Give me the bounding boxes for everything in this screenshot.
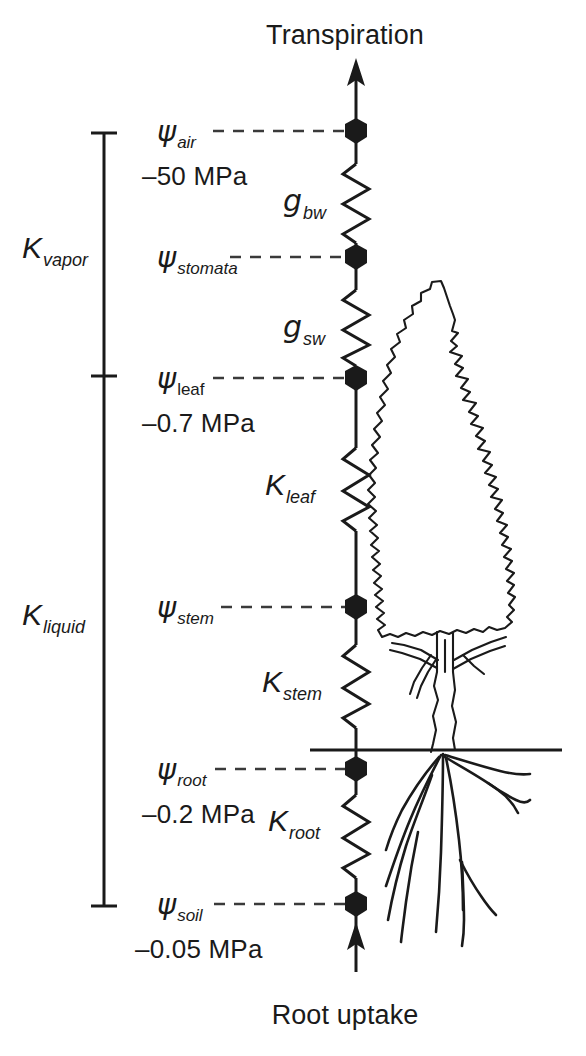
psi-air-subscript: air	[177, 134, 196, 151]
node-psi-stem	[345, 594, 367, 620]
spac-diagram: Transpiration Root uptake Kvapor Kliquid…	[0, 0, 586, 1056]
k-stem-label: Kstem	[262, 667, 322, 697]
psi-leaf-subscript: leaf	[177, 381, 204, 398]
tree-outline	[368, 281, 515, 752]
g-bw-subscript: bw	[303, 204, 326, 222]
k-leaf-symbol: K	[265, 470, 285, 500]
g-bw-label: gbw	[283, 186, 326, 216]
transpiration-label: Transpiration	[266, 22, 424, 49]
g-bw-symbol: g	[283, 186, 302, 216]
k-root-subscript: root	[289, 824, 320, 842]
node-psi-stomata	[345, 244, 367, 270]
bracket-label-k-vapor: Kvapor	[22, 233, 88, 263]
node-psi-air	[345, 118, 367, 144]
psi-stomata-symbol: ψ	[157, 243, 176, 272]
g-sw-symbol: g	[283, 312, 302, 342]
k-vapor-subscript: vapor	[43, 251, 88, 269]
psi-leaf-value: –0.7 MPa	[142, 410, 255, 436]
node-psi-soil	[345, 891, 367, 917]
psi-root-value: –0.2 MPa	[142, 801, 255, 827]
psi-stomata-label: ψstomata	[157, 243, 238, 272]
psi-leaf-label: ψleaf	[157, 364, 205, 393]
k-stem-subscript: stem	[283, 685, 322, 703]
psi-stem-label: ψstem	[157, 593, 214, 622]
psi-soil-symbol: ψ	[157, 890, 176, 919]
psi-soil-subscript: soil	[177, 907, 203, 924]
psi-air-symbol: ψ	[157, 117, 176, 146]
psi-soil-value: –0.05 MPa	[135, 936, 263, 962]
diagram-vector-layer	[0, 0, 586, 1056]
circuit-path	[343, 72, 369, 972]
psi-leaf-symbol: ψ	[157, 364, 176, 393]
left-bracket	[91, 133, 117, 906]
psi-root-subscript: root	[177, 772, 206, 789]
g-sw-label: gsw	[283, 312, 325, 342]
k-leaf-label: Kleaf	[265, 470, 315, 500]
psi-air-label: ψair	[157, 117, 196, 146]
psi-air-value: –50 MPa	[142, 163, 247, 189]
k-stem-symbol: K	[262, 667, 282, 697]
k-leaf-subscript: leaf	[286, 488, 315, 506]
psi-root-symbol: ψ	[157, 755, 176, 784]
root-uptake-label: Root uptake	[272, 1002, 419, 1029]
k-liquid-symbol: K	[22, 600, 42, 630]
psi-soil-label: ψsoil	[157, 890, 203, 919]
g-sw-subscript: sw	[303, 330, 325, 348]
k-root-symbol: K	[268, 806, 288, 836]
psi-root-label: ψroot	[157, 755, 206, 784]
root-system	[386, 754, 530, 946]
k-liquid-subscript: liquid	[43, 618, 85, 636]
bracket-label-k-liquid: Kliquid	[22, 600, 85, 630]
psi-stomata-subscript: stomata	[177, 260, 237, 277]
node-psi-root	[345, 756, 367, 782]
psi-stem-subscript: stem	[177, 610, 214, 627]
k-vapor-symbol: K	[22, 233, 42, 263]
k-root-label: Kroot	[268, 806, 320, 836]
psi-stem-symbol: ψ	[157, 593, 176, 622]
node-psi-leaf	[345, 365, 367, 391]
